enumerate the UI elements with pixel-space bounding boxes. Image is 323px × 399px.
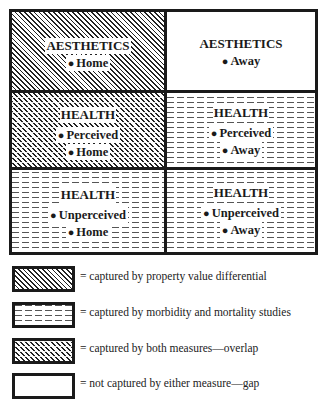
label-health-unperceived-home: HEALTH ●Unperceived ●Home [12, 187, 164, 240]
bullet-icon: ● [202, 207, 211, 219]
cell-title: AESTHETICS [198, 36, 283, 52]
label-health-unperceived-away: HEALTH ●Unperceived ●Away [167, 185, 315, 238]
cell-title: HEALTH [60, 107, 116, 123]
cell-item: Home [75, 225, 109, 239]
cell-item: Unperceived [58, 208, 127, 222]
label-aesthetics-away: AESTHETICS ●Away [167, 36, 315, 69]
cell-item: Home [75, 56, 109, 70]
legend-label: = not captured by either measure—gap [80, 377, 259, 389]
row-divider-1 [12, 90, 315, 93]
cell-item: Away [230, 54, 262, 68]
measurement-grid: AESTHETICS ●Home AESTHETICS ●Away HEALTH… [9, 9, 318, 255]
cell-item: Unperceived [211, 206, 280, 220]
cell-title: HEALTH [60, 187, 116, 203]
cell-item: Home [75, 145, 109, 159]
cell-item: Away [230, 143, 262, 157]
row-divider-2 [12, 167, 315, 170]
cell-item: Away [230, 223, 262, 237]
cell-item: Perceived [218, 126, 272, 140]
overlap-swatch-icon [12, 338, 75, 364]
gap-swatch-icon [12, 373, 75, 399]
bullet-icon: ● [221, 224, 230, 236]
label-health-perceived-away: HEALTH ●Perceived ●Away [167, 105, 315, 158]
bullet-icon: ● [49, 209, 58, 221]
morbidity-mortality-swatch-icon [12, 302, 75, 328]
cell-title: HEALTH [213, 105, 269, 121]
property-value-swatch-icon [12, 266, 75, 292]
legend-label: = captured by morbidity and mortality st… [80, 306, 291, 318]
cell-title: AESTHETICS [45, 38, 130, 54]
legend-label: = captured by property value differentia… [80, 270, 267, 282]
cell-item: Perceived [65, 128, 119, 142]
cell-title: HEALTH [213, 185, 269, 201]
label-aesthetics-home: AESTHETICS ●Home [12, 38, 164, 71]
bullet-icon: ● [221, 55, 230, 67]
legend-label: = captured by both measures—overlap [80, 342, 258, 354]
bullet-icon: ● [221, 144, 230, 156]
label-health-perceived-home: HEALTH ●Perceived ●Home [12, 107, 164, 160]
